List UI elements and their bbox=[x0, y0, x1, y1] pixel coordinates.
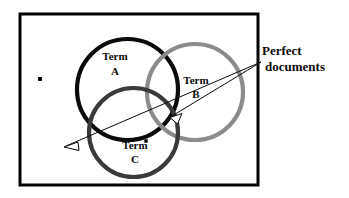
term-a-label-line1: Term bbox=[102, 50, 127, 62]
perfect-documents-label-line1: Perfect bbox=[262, 43, 302, 58]
term-b-label-line1: Term bbox=[183, 74, 208, 86]
term-c-label-line1: Term bbox=[122, 139, 147, 151]
term-a-label-line2: A bbox=[111, 65, 119, 77]
document-dot-outside bbox=[38, 77, 42, 81]
document-dot-term-c bbox=[144, 139, 148, 143]
venn-diagram-figure: Term A Term B Term C Perfect documents bbox=[0, 0, 349, 198]
term-c-label-line2: C bbox=[131, 153, 139, 165]
diagram-canvas: Term A Term B Term C Perfect documents bbox=[0, 0, 349, 198]
perfect-documents-label-line2: documents bbox=[265, 59, 325, 74]
